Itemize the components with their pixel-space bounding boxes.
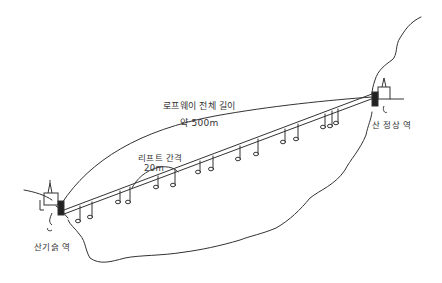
- top-station-label: 산 정상 역: [372, 118, 411, 130]
- chair-icon: [328, 111, 333, 128]
- mountain-summit-outline: [372, 17, 421, 95]
- total-length-value: 약 500m: [180, 116, 219, 129]
- top-station-icon: [372, 78, 404, 113]
- chair-icon: [154, 176, 159, 189]
- lift-spacing-label: 리프트 간격: [138, 151, 183, 163]
- chair-icon: [209, 156, 214, 171]
- chair-icon: [281, 129, 286, 144]
- mountain-right-slope: [68, 112, 372, 262]
- chair-icon: [254, 139, 259, 156]
- total-length-label: 로프웨이 전체 길이: [163, 99, 236, 112]
- total-length-arc: [62, 97, 372, 203]
- chair-icon: [321, 114, 326, 129]
- bottom-station-icon: [40, 180, 64, 231]
- bottom-station-label: 산기슭 역: [34, 240, 70, 252]
- chair-icon: [196, 161, 201, 174]
- chair-icon: [294, 124, 299, 141]
- lift-spacing-value: 20m: [144, 163, 164, 173]
- chair-icon: [334, 109, 339, 125]
- chair-icon: [236, 146, 241, 161]
- chair-icon: [116, 191, 121, 204]
- chair-icon: [171, 170, 176, 187]
